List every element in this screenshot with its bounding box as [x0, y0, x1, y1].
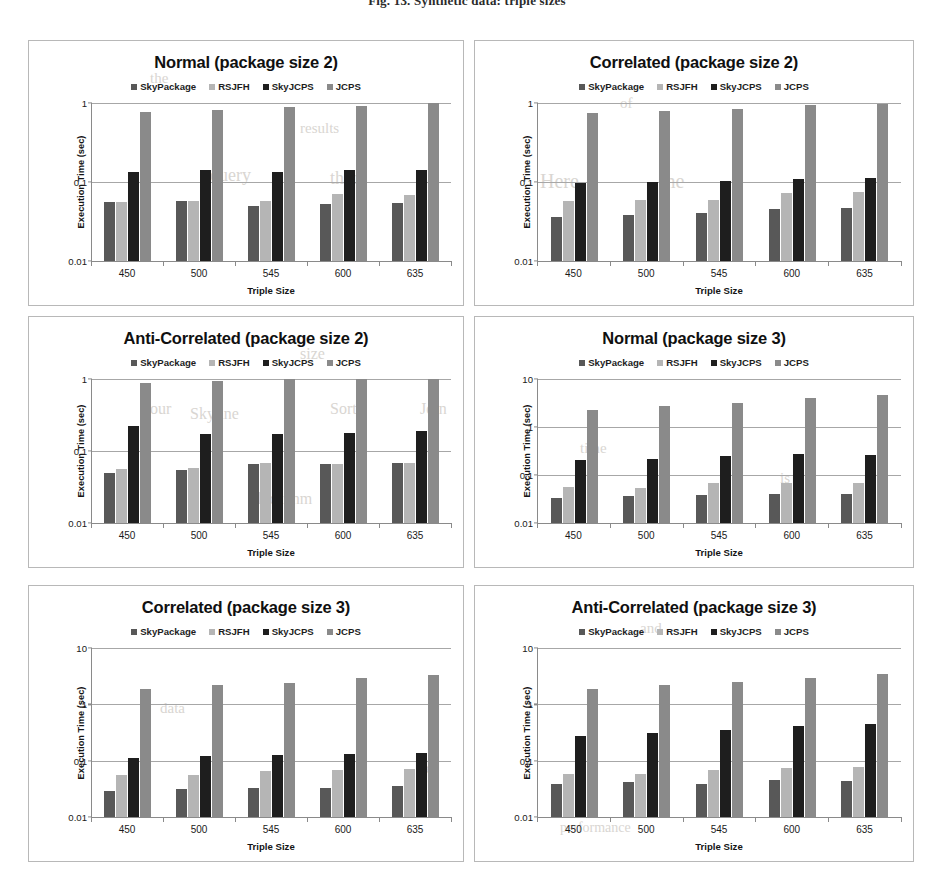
bar: [140, 112, 151, 261]
x-tick-label: 500: [610, 824, 683, 835]
bar: [284, 379, 295, 523]
bar: [877, 104, 888, 261]
bar-group: [164, 648, 236, 817]
bar: [635, 774, 646, 817]
bar-group: [538, 379, 611, 523]
bar: [404, 769, 415, 817]
bar: [623, 782, 634, 817]
x-tick-mark: [379, 523, 380, 528]
x-tick-mark: [307, 817, 308, 822]
y-tick-label: 0.1: [520, 755, 533, 766]
x-tick-mark: [307, 523, 308, 528]
x-axis-ticks: 450500545600635: [91, 530, 451, 541]
bar-group: [164, 103, 236, 261]
bar-group: [828, 648, 901, 817]
bar-group: [307, 379, 379, 523]
bar: [284, 107, 295, 261]
x-tick-mark: [901, 261, 902, 266]
bar: [272, 172, 283, 261]
bar: [332, 770, 343, 817]
bar: [781, 768, 792, 817]
bar: [128, 426, 139, 523]
bar: [176, 789, 187, 817]
chart-panel: Anti-Correlated (package size 3)SkyPacka…: [474, 585, 914, 862]
bar: [587, 410, 598, 523]
x-tick-mark: [537, 261, 538, 266]
bar: [392, 203, 403, 261]
bar: [551, 784, 562, 817]
bar: [416, 431, 427, 523]
bar: [865, 178, 876, 261]
plot-canvas: 0.010.1110: [91, 648, 451, 817]
y-tick-label: 0.01: [514, 518, 533, 529]
bar: [428, 675, 439, 817]
bar-series-container: [92, 379, 451, 523]
bar: [104, 202, 115, 261]
x-tick-label: 450: [537, 530, 610, 541]
bar: [696, 784, 707, 817]
x-tick-label: 635: [379, 824, 451, 835]
bar: [416, 753, 427, 817]
bar-group: [756, 648, 829, 817]
x-tick-mark: [610, 523, 611, 528]
bar: [793, 179, 804, 261]
bar: [708, 483, 719, 523]
x-tick-label: 635: [828, 824, 901, 835]
plot-area: Execution Time (sec)0.010.11450500545600…: [29, 317, 465, 569]
bar: [853, 192, 864, 261]
x-tick-label: 635: [828, 530, 901, 541]
x-tick-mark: [610, 261, 611, 266]
bar: [877, 395, 888, 523]
y-tick-label: 0.01: [68, 518, 87, 529]
bar: [551, 217, 562, 261]
y-tick-label: 1: [528, 699, 533, 710]
x-tick-label: 500: [163, 824, 235, 835]
x-tick-label: 600: [307, 824, 379, 835]
x-tick-mark: [828, 817, 829, 822]
bar: [188, 775, 199, 817]
bar: [563, 201, 574, 261]
bar: [720, 181, 731, 261]
x-tick-label: 450: [91, 530, 163, 541]
y-tick-label: 0.1: [74, 177, 87, 188]
y-tick-label: 10: [76, 643, 87, 654]
x-tick-mark: [901, 817, 902, 822]
bar: [865, 724, 876, 817]
x-tick-label: 545: [683, 268, 756, 279]
bar: [428, 379, 439, 523]
x-tick-mark: [307, 261, 308, 266]
x-tick-mark: [683, 817, 684, 822]
bar: [392, 463, 403, 523]
bar: [200, 170, 211, 261]
chart-panel: Correlated (package size 2)SkyPackageRSJ…: [474, 40, 914, 306]
bar: [332, 194, 343, 261]
figure-caption: Fig. 13. Synthetic data: triple sizes: [0, 0, 934, 8]
bar: [260, 463, 271, 523]
x-tick-label: 500: [610, 268, 683, 279]
y-tick-label: 1: [82, 699, 87, 710]
x-tick-mark: [91, 817, 92, 822]
x-tick-mark: [537, 817, 538, 822]
bar: [708, 200, 719, 261]
bar: [272, 755, 283, 817]
x-axis-ticks: 450500545600635: [91, 824, 451, 835]
x-tick-mark: [451, 817, 452, 822]
y-tick-label: 10: [522, 643, 533, 654]
y-gridline: [92, 817, 451, 818]
bar-group: [756, 379, 829, 523]
bar: [116, 202, 127, 261]
y-tick-label: 0.1: [520, 177, 533, 188]
bar: [805, 105, 816, 261]
plot-canvas: 0.010.11: [91, 103, 451, 261]
bar: [551, 498, 562, 523]
plot-area: Execution Time (sec)0.010.11104505005456…: [29, 586, 465, 863]
bar: [200, 434, 211, 523]
x-tick-mark: [683, 523, 684, 528]
bar-group: [164, 379, 236, 523]
bar-group: [828, 103, 901, 261]
bar-group: [92, 648, 164, 817]
bar: [188, 468, 199, 523]
x-tick-mark: [451, 261, 452, 266]
x-axis-ticks: 450500545600635: [537, 824, 901, 835]
bar: [841, 494, 852, 523]
